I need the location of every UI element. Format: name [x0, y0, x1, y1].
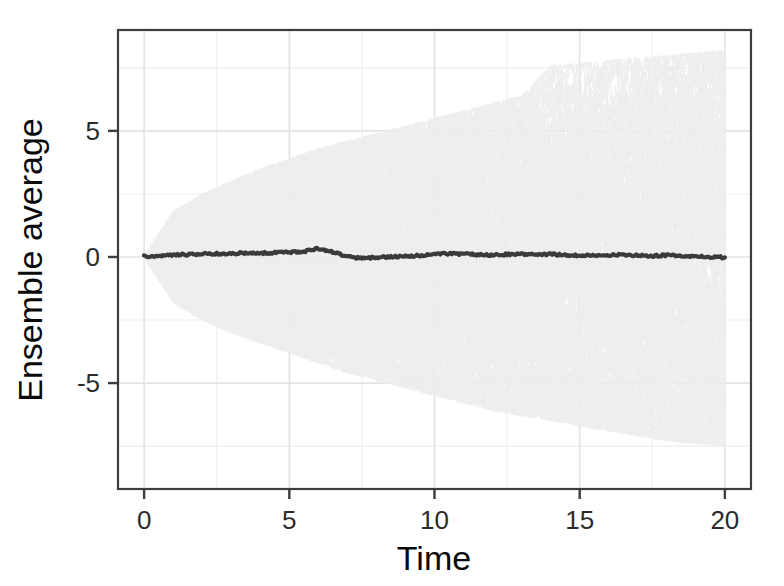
ensemble-average-plot: 05101520 -505 Time Ensemble average [0, 0, 784, 586]
x-tick-label: 5 [282, 505, 296, 535]
y-tick-label: 0 [86, 242, 100, 272]
y-tick-label: 5 [86, 116, 100, 146]
x-tick-label: 15 [565, 505, 594, 535]
y-axis-title: Ensemble average [11, 118, 49, 402]
x-tick-label: 10 [420, 505, 449, 535]
x-tick-label: 20 [710, 505, 739, 535]
y-tick-label: -5 [77, 368, 100, 398]
x-axis-title: Time [397, 539, 471, 577]
x-tick-label: 0 [137, 505, 151, 535]
chart-figure: 05101520 -505 Time Ensemble average [0, 0, 784, 586]
